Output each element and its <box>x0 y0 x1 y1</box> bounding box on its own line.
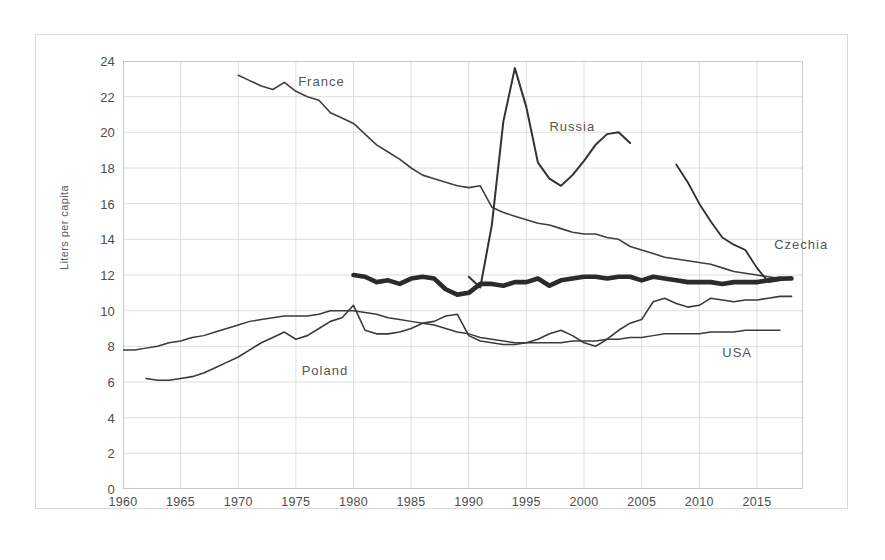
x-tick-2005: 2005 <box>627 495 656 509</box>
x-axis-tick-labels: 1960196519701975198019851990199520002005… <box>123 495 803 515</box>
series-label-usa: USA <box>722 345 752 360</box>
x-tick-2000: 2000 <box>570 495 599 509</box>
grid-lines <box>123 61 803 489</box>
x-tick-2015: 2015 <box>742 495 771 509</box>
y-axis-label: Liters per capita <box>58 185 76 270</box>
series-line-usa <box>123 311 780 350</box>
series-line-czechia <box>676 164 791 282</box>
y-tick-12: 12 <box>100 268 115 283</box>
series-label-france: France <box>298 74 344 89</box>
x-tick-2010: 2010 <box>685 495 714 509</box>
y-tick-16: 16 <box>100 196 115 211</box>
x-tick-1975: 1975 <box>281 495 310 509</box>
series-label-czechia: Czechia <box>774 237 828 252</box>
series-label-russia: Russia <box>549 119 595 134</box>
x-tick-1995: 1995 <box>512 495 541 509</box>
y-tick-18: 18 <box>100 161 115 176</box>
x-tick-1970: 1970 <box>224 495 253 509</box>
y-axis-tick-labels: 024681012141618202224 <box>83 61 115 489</box>
x-tick-1980: 1980 <box>339 495 368 509</box>
y-tick-22: 22 <box>100 89 115 104</box>
chart-canvas <box>123 61 803 489</box>
series-label-poland: Poland <box>302 363 348 378</box>
y-tick-14: 14 <box>100 232 115 247</box>
plot-area <box>123 61 803 489</box>
y-tick-6: 6 <box>108 375 115 390</box>
series-line-france <box>238 75 791 278</box>
x-tick-1985: 1985 <box>397 495 426 509</box>
chart-screenshot: Liters per capita 024681012141618202224 … <box>0 0 885 560</box>
x-tick-1965: 1965 <box>166 495 195 509</box>
y-tick-10: 10 <box>100 303 115 318</box>
y-tick-4: 4 <box>108 410 115 425</box>
x-tick-1990: 1990 <box>454 495 483 509</box>
y-tick-20: 20 <box>100 125 115 140</box>
y-tick-24: 24 <box>100 54 115 69</box>
y-tick-2: 2 <box>108 446 115 461</box>
y-tick-8: 8 <box>108 339 115 354</box>
x-tick-1960: 1960 <box>108 495 137 509</box>
series-line-russia <box>469 68 630 287</box>
series-line-czechia-bold <box>354 275 792 295</box>
